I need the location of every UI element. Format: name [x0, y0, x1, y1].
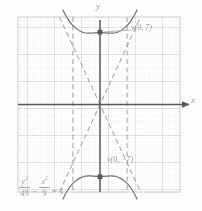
equation-equals-one: = 1 — [51, 186, 65, 196]
equation-x-denominator: 9 — [41, 189, 48, 198]
equation-y-denominator: 49 — [19, 189, 30, 198]
equation-x-term: x2 9 — [39, 176, 50, 198]
equation-y-numerator: y2 — [20, 176, 28, 186]
vertex-top-label: v(0, 7) — [131, 24, 152, 32]
equation-minus-sign: − — [31, 186, 38, 196]
equation-x-numerator: x2 — [40, 176, 48, 186]
vertex-bottom-label: v(0, −7) — [107, 156, 133, 164]
equation-y-term: y2 49 — [19, 176, 30, 198]
hyperbola-figure: y x v(0, 7) v(0, −7) y2 49 − x2 9 = 1 — [0, 0, 202, 211]
vertex-marker-top — [98, 30, 103, 35]
axis-x-label: x — [191, 96, 195, 105]
vertex-marker-bottom — [98, 174, 103, 179]
axis-y-label: y — [96, 2, 100, 11]
hyperbola-equation: y2 49 − x2 9 = 1 — [19, 176, 65, 198]
